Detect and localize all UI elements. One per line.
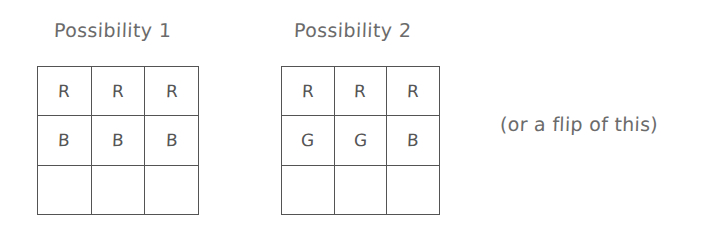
cell-label: G	[301, 132, 315, 149]
cell-label: G	[353, 132, 367, 149]
grid-2-cell-r2c2[interactable]: G	[335, 116, 388, 165]
figure-canvas: Possibility 1 R R R B B B Possibility 2 …	[0, 0, 716, 232]
grid-2-cell-r2c3[interactable]: B	[387, 116, 440, 165]
grid-1-cell-r2c2[interactable]: B	[92, 116, 146, 165]
cell-label: R	[301, 82, 314, 99]
grid-1-cell-r1c2[interactable]: R	[92, 67, 146, 116]
grid-2-cell-r3c2[interactable]	[335, 166, 388, 215]
grid-2-cell-r3c1[interactable]	[282, 166, 335, 215]
grid-2-cell-r1c3[interactable]: R	[387, 67, 440, 116]
cell-label: B	[407, 132, 420, 149]
grid-1-cell-r3c1[interactable]	[38, 166, 92, 215]
cell-label: R	[354, 82, 367, 99]
cell-label: R	[165, 82, 178, 99]
grid-2-cell-r2c1[interactable]: G	[282, 116, 335, 165]
flip-annotation: (or a flip of this)	[500, 113, 659, 135]
grid-title-possibility-2: Possibility 2	[294, 19, 412, 41]
grid-1-cell-r1c3[interactable]: R	[145, 67, 199, 116]
grid-1-cell-r2c3[interactable]: B	[145, 116, 199, 165]
cell-label: B	[58, 132, 71, 149]
grid-2-cell-r1c1[interactable]: R	[282, 67, 335, 116]
grid-1-cell-r2c1[interactable]: B	[38, 116, 92, 165]
cell-label: R	[58, 82, 71, 99]
grid-possibility-1: R R R B B B	[37, 66, 199, 215]
cell-label: R	[111, 82, 124, 99]
grid-possibility-2: R R R G G B	[281, 66, 440, 215]
grid-title-possibility-1: Possibility 1	[54, 19, 172, 41]
grid-2-cell-r1c2[interactable]: R	[335, 67, 388, 116]
cell-label: B	[165, 132, 178, 149]
grid-1-cell-r1c1[interactable]: R	[38, 67, 92, 116]
cell-label: B	[112, 132, 125, 149]
grid-2-cell-r3c3[interactable]	[387, 166, 440, 215]
grid-1-cell-r3c3[interactable]	[145, 166, 199, 215]
cell-label: R	[407, 82, 420, 99]
grid-1-cell-r3c2[interactable]	[92, 166, 146, 215]
